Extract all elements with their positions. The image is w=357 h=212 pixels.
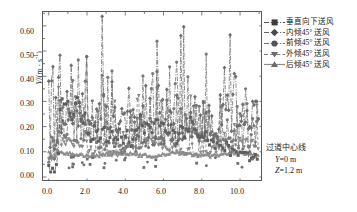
x-tick-label-6: 6.0: [146, 188, 176, 196]
y-tick-label-030: 0.30: [8, 100, 34, 108]
annotation-line-3: Z=1.2 m: [266, 165, 352, 177]
y-tick-label-060: 0.60: [8, 28, 34, 36]
legend: 垂直向下送风 内倾45° 送风 前倾45° 送风 外倾45° 送风: [264, 17, 357, 70]
legend-item-3[interactable]: 外倾45° 送风: [264, 49, 357, 60]
y-axis-exponent: -1: [33, 54, 39, 59]
plot-svg: [43, 12, 262, 181]
legend-marker-square-icon: [264, 18, 285, 27]
legend-label-2: 前倾45° 送风: [286, 39, 330, 47]
legend-marker-circle-icon: [264, 39, 285, 48]
legend-label-0: 垂直向下送风: [286, 18, 333, 26]
plot-area: [42, 11, 262, 181]
annotation-block: 过道中心线 Y=0 m Z=1.2 m: [266, 142, 352, 177]
x-tick-label-4: 4.0: [108, 188, 138, 196]
x-tick-label-0: 0.0: [32, 188, 62, 196]
series-group: [47, 14, 260, 173]
chart-figure: V/(m · s-1) 0.60 0.50 0.40 0.30 0.20 0.1…: [0, 0, 357, 212]
y-tick-label-050: 0.50: [8, 52, 34, 60]
x-tick-label-8: 8.0: [184, 188, 214, 196]
legend-item-2[interactable]: 前倾45° 送风: [264, 38, 357, 49]
legend-label-4: 后倾45° 送风: [286, 61, 330, 69]
x-tick-label-2: 2.0: [70, 188, 100, 196]
annotation-z-value: =1.2 m: [279, 166, 302, 175]
legend-marker-triangle-up-icon: [264, 60, 285, 69]
annotation-y-value: =0 m: [279, 155, 296, 164]
x-tick-label-10: 10.0: [222, 188, 252, 196]
legend-marker-diamond-icon: [264, 28, 285, 37]
y-tick-label-040: 0.40: [8, 76, 34, 84]
legend-label-3: 外倾45° 送风: [286, 50, 330, 58]
annotation-line-1: 过道中心线: [266, 142, 352, 154]
legend-label-1: 内倾45° 送风: [286, 29, 330, 37]
y-tick-label-020: 0.20: [8, 124, 34, 132]
annotation-line-2: Y=0 m: [266, 154, 352, 166]
y-tick-label-000: 0.00: [8, 172, 34, 180]
legend-item-0[interactable]: 垂直向下送风: [264, 17, 357, 28]
y-tick-label-010: 0.10: [8, 148, 34, 156]
legend-item-4[interactable]: 后倾45° 送风: [264, 59, 357, 70]
legend-marker-triangle-down-icon: [264, 50, 285, 59]
legend-item-1[interactable]: 内倾45° 送风: [264, 28, 357, 39]
